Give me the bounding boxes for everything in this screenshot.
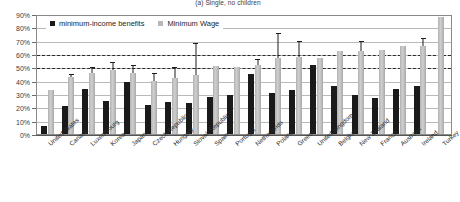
x-axis-label-cell: Australia <box>389 137 410 201</box>
legend-swatch-icon <box>158 21 163 26</box>
error-bar-cap <box>255 59 260 60</box>
x-axis-label-cell: United Kingdom <box>306 137 327 201</box>
bar-group <box>78 16 99 134</box>
bar-group <box>265 16 286 134</box>
legend-label: Minimum Wage <box>167 19 219 28</box>
chart-legend: minimum-income benefitsMinimum Wage <box>46 17 223 29</box>
bar-minimum-wage <box>420 46 426 134</box>
error-bar <box>154 73 155 81</box>
x-axis-label-cell: Korea <box>99 137 120 201</box>
bar-minimum-income-benefits <box>289 90 295 134</box>
bar-group <box>244 16 265 134</box>
error-bar <box>195 43 196 75</box>
error-bar <box>278 33 279 58</box>
error-bar-cap <box>110 62 115 63</box>
error-bar <box>112 62 113 70</box>
error-bar <box>361 41 362 52</box>
bar-group <box>410 16 431 134</box>
error-bar-cap <box>276 33 281 34</box>
x-axis-label-cell: Hungary <box>161 137 182 201</box>
legend-item: Minimum Wage <box>158 19 219 28</box>
error-bar-cap <box>69 74 74 75</box>
x-axis-label-cell: Spain <box>203 137 224 201</box>
y-axis-tick-label: 0% <box>20 132 30 139</box>
bar-minimum-wage <box>130 73 136 134</box>
bar-group <box>37 16 58 134</box>
x-axis-label-cell: Japan <box>120 137 141 201</box>
y-axis-tick-label: 30% <box>16 92 30 99</box>
bar-minimum-income-benefits <box>393 89 399 134</box>
x-axis-labels: United StatesCanadaLuxembourgKoreaJapanC… <box>37 137 451 201</box>
bar-minimum-wage <box>255 65 261 134</box>
y-axis-tick-label: 40% <box>16 78 30 85</box>
y-axis-tick-label: 20% <box>16 105 30 112</box>
error-bar-cap <box>421 38 426 39</box>
bar-minimum-income-benefits <box>145 105 151 134</box>
bar-minimum-wage <box>317 58 323 134</box>
x-axis-label-cell: Greece <box>285 137 306 201</box>
y-axis-tick-label: 90% <box>16 12 30 19</box>
bar-minimum-wage <box>89 73 95 134</box>
x-axis-label-cell: Belgium <box>327 137 348 201</box>
bar-minimum-wage <box>358 51 364 134</box>
error-bar <box>423 38 424 46</box>
chart-title: (a) Single, no children <box>0 0 456 6</box>
legend-swatch-icon <box>50 21 55 26</box>
error-bar-cap <box>152 73 157 74</box>
y-axis-tick-label: 60% <box>16 52 30 59</box>
y-axis-tick-label: 70% <box>16 38 30 45</box>
bar-minimum-income-benefits <box>124 82 130 134</box>
bar-series-group <box>37 16 451 134</box>
x-axis-label-cell: Netherlands <box>244 137 265 201</box>
bar-minimum-income-benefits <box>310 65 316 134</box>
bar-minimum-wage <box>48 90 54 134</box>
x-axis-label-cell: Ireland <box>410 137 431 201</box>
bar-minimum-wage <box>438 17 444 134</box>
x-axis-label-cell: France <box>368 137 389 201</box>
bar-group <box>120 16 141 134</box>
bar-group <box>285 16 306 134</box>
error-bar-cap <box>172 67 177 68</box>
x-axis-label-cell: Czech Republic <box>141 137 162 201</box>
y-axis-tick-label: 80% <box>16 25 30 32</box>
x-axis-label-cell: Turkey <box>430 137 451 201</box>
error-bar <box>299 41 300 57</box>
error-bar <box>257 59 258 64</box>
error-bar <box>174 67 175 78</box>
bar-minimum-wage <box>193 75 199 134</box>
error-bar-cap <box>131 65 136 66</box>
bar-minimum-income-benefits <box>41 126 47 134</box>
error-bar-cap <box>193 43 198 44</box>
x-axis-label-cell: Canada <box>58 137 79 201</box>
bar-minimum-wage <box>234 67 240 134</box>
bar-minimum-wage <box>296 57 302 134</box>
bar-group <box>141 16 162 134</box>
x-axis-label-cell: New Zealand <box>348 137 369 201</box>
y-axis: 0%10%20%30%40%50%60%70%80%90% <box>0 15 34 135</box>
error-bar-cap <box>90 67 95 68</box>
x-axis-label-cell: United States <box>37 137 58 201</box>
error-bar <box>133 65 134 73</box>
error-bar <box>71 74 72 77</box>
y-axis-tick-label: 10% <box>16 118 30 125</box>
x-axis-label-cell: Luxembourg <box>78 137 99 201</box>
x-axis-label-cell: Portugal <box>223 137 244 201</box>
bar-group <box>306 16 327 134</box>
bar-group <box>430 16 451 134</box>
legend-label: minimum-income benefits <box>59 19 144 28</box>
error-bar-cap <box>297 41 302 42</box>
bar-group <box>99 16 120 134</box>
bar-minimum-wage <box>400 46 406 134</box>
legend-item: minimum-income benefits <box>50 19 144 28</box>
x-axis-label-cell: Slovak Republic <box>182 137 203 201</box>
y-axis-tick-label: 50% <box>16 65 30 72</box>
bar-group <box>389 16 410 134</box>
error-bar-cap <box>359 41 364 42</box>
x-axis-label-cell: Poland <box>265 137 286 201</box>
bar-minimum-wage <box>151 81 157 134</box>
error-bar <box>92 67 93 72</box>
